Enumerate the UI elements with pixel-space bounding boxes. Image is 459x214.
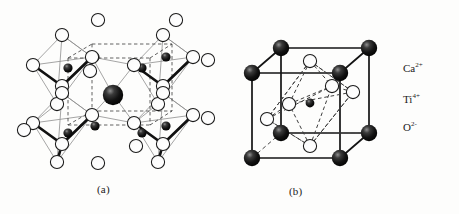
panel-b-ti-atom bbox=[306, 99, 315, 108]
legend-item-ti: Ti4+ bbox=[392, 93, 420, 105]
figure-canvas bbox=[0, 0, 459, 214]
panel-a-label: (a) bbox=[97, 183, 110, 195]
panel-b-unit-cell bbox=[244, 40, 377, 166]
legend-item-ca: Ca2+ bbox=[392, 62, 423, 74]
panel-a-structure bbox=[17, 13, 214, 169]
panel-b-label: (b) bbox=[289, 185, 302, 197]
panel-a-ca-atom bbox=[103, 85, 123, 105]
perovskite-structure-figure: (a) (b) Ca2+ Ti4+ O2- bbox=[0, 0, 459, 214]
legend-item-o: O2- bbox=[392, 121, 417, 133]
